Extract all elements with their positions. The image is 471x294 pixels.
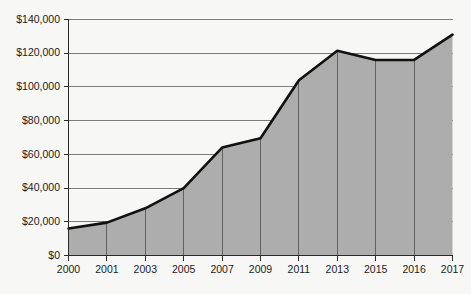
y-tick-label: $120,000 [16, 46, 60, 58]
y-tick-label: $20,000 [22, 215, 60, 227]
area-chart: $0$20,000$40,000$60,000$80,000$100,000$1… [0, 0, 471, 294]
y-tick-label: $0 [48, 249, 60, 261]
x-tick-label: 2001 [95, 263, 119, 275]
x-tick-label: 2017 [441, 263, 465, 275]
y-tick-label: $100,000 [16, 80, 60, 92]
x-tick-label: 2007 [210, 263, 234, 275]
x-tick-label: 2005 [172, 263, 196, 275]
y-tick-label: $80,000 [22, 114, 60, 126]
x-tick-label: 2003 [134, 263, 158, 275]
x-tick-label: 2015 [364, 263, 388, 275]
x-tick-label: 2000 [57, 263, 81, 275]
x-axis-tick-labels: 2000200120032005200720092011201320152016… [57, 256, 465, 275]
y-tick-label: $40,000 [22, 181, 60, 193]
y-axis-tick-labels: $0$20,000$40,000$60,000$80,000$100,000$1… [16, 13, 68, 261]
y-tick-label: $140,000 [16, 13, 60, 25]
y-tick-label: $60,000 [22, 148, 60, 160]
x-tick-label: 2009 [249, 263, 273, 275]
x-tick-label: 2011 [288, 263, 311, 275]
x-tick-label: 2016 [402, 263, 426, 275]
chart-canvas: $0$20,000$40,000$60,000$80,000$100,000$1… [0, 0, 471, 294]
x-tick-label: 2013 [326, 263, 350, 275]
